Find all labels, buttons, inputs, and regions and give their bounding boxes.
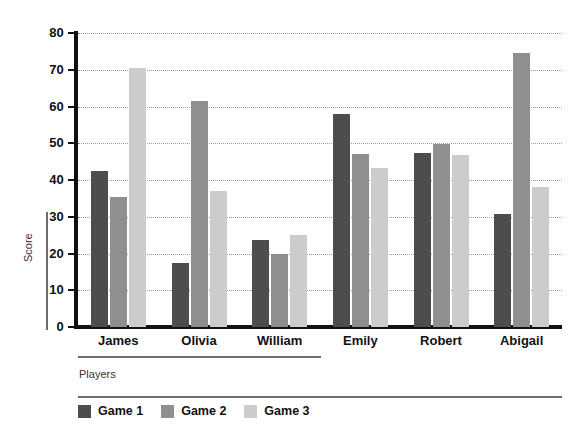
legend-swatch-game-3 [244,405,257,418]
y-axis-tick-label: 30 [18,210,64,223]
plot-area [78,33,562,327]
bar-group [91,33,146,327]
y-axis-tick [68,32,75,34]
bar[interactable] [110,197,127,327]
gridline [78,217,562,218]
bar[interactable] [452,155,469,327]
y-axis-tick [68,142,75,144]
y-axis-tick [68,253,75,255]
bar[interactable] [333,114,350,327]
bar[interactable] [532,187,549,327]
bar-chart: Score 01020304050607080 JamesOliviaWilli… [0,0,586,440]
bar[interactable] [494,214,511,327]
gridline [78,290,562,291]
y-axis-tick [68,179,75,181]
bar-group [252,33,307,327]
legend-item[interactable]: Game 3 [244,404,309,418]
y-axis-tick-label: 70 [18,63,64,76]
x-axis-title-rule [78,356,321,358]
y-axis-tick [68,106,75,108]
y-axis-tick [68,289,75,291]
bar[interactable] [210,191,227,327]
bar[interactable] [433,144,450,327]
legend-swatch-game-1 [78,405,91,418]
gridline [78,180,562,181]
y-axis-tick [68,326,75,328]
x-axis-category-label: Abigail [472,333,572,348]
bar[interactable] [352,154,369,327]
y-axis-tick [68,69,75,71]
bar-group [333,33,388,327]
bar-group [414,33,469,327]
gridline [78,143,562,144]
gridline [78,33,562,34]
bar[interactable] [414,153,431,327]
x-axis-title: Players [79,368,116,380]
y-axis-title-rule [46,212,48,330]
bar[interactable] [91,171,108,327]
bar[interactable] [513,53,530,327]
legend-item[interactable]: Game 2 [161,404,226,418]
bar-group [172,33,227,327]
bar[interactable] [290,235,307,327]
y-axis-tick-label: 10 [18,283,64,296]
y-axis-tick-label: 80 [18,26,64,39]
legend-label: Game 2 [181,404,226,418]
bar[interactable] [129,68,146,327]
y-axis-tick [68,216,75,218]
gridline [78,107,562,108]
y-axis-tick-label: 60 [18,100,64,113]
bar[interactable] [271,254,288,327]
legend-divider [78,396,562,398]
bar[interactable] [371,168,388,327]
bar[interactable] [191,101,208,327]
gridline [78,254,562,255]
bar-group [494,33,549,327]
y-axis-tick-label: 0 [18,320,64,333]
bar[interactable] [172,263,189,327]
y-axis-tick-label: 40 [18,173,64,186]
legend-label: Game 3 [264,404,309,418]
gridline [78,70,562,71]
legend-label: Game 1 [98,404,143,418]
legend-item[interactable]: Game 1 [78,404,143,418]
chart-legend: Game 1Game 2Game 3 [78,404,310,418]
y-axis-tick-label: 20 [18,247,64,260]
legend-swatch-game-2 [161,405,174,418]
y-axis-tick-label: 50 [18,136,64,149]
bar[interactable] [252,240,269,327]
